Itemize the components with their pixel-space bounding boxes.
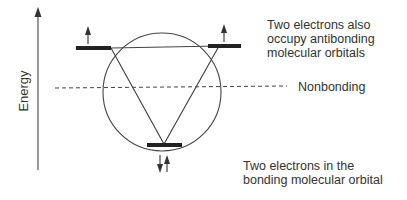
nonbonding-label: Nonbonding [298, 80, 365, 94]
energy-axis-label: Energy [16, 70, 31, 111]
antibonding-level-right [208, 44, 241, 48]
antibonding-label-line-1: Two electrons also [267, 18, 375, 32]
energy-axis-arrow [35, 7, 42, 170]
frost-circle-diagram: Energy Two electrons also occupy antibon… [0, 0, 407, 200]
nonbonding-dashed-line [55, 86, 287, 88]
electron-up-arrow-left [85, 26, 91, 44]
electron-up-arrow-right [221, 24, 227, 42]
bonding-level [147, 143, 182, 147]
bonding-label: Two electrons in the bonding molecular o… [243, 159, 383, 187]
inscribed-triangle [111, 46, 219, 144]
antibonding-label: Two electrons also occupy antibonding mo… [267, 18, 375, 60]
bonding-label-line-2: bonding molecular orbital [243, 173, 383, 187]
bonding-label-line-1: Two electrons in the [243, 159, 383, 173]
frost-circle [103, 33, 221, 151]
antibonding-label-line-3: molecular orbitals [267, 46, 375, 60]
antibonding-label-line-2: occupy antibonding [267, 32, 375, 46]
electron-pair-arrows-bonding [157, 155, 170, 173]
antibonding-level-left [76, 46, 111, 50]
